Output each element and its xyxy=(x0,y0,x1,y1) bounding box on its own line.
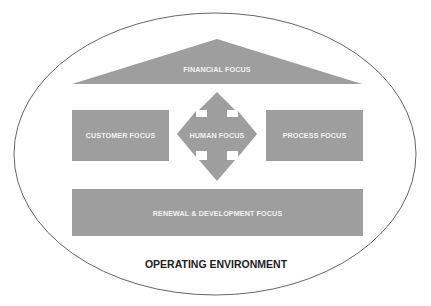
renewal-development-focus-node: RENEWAL & DEVELOPMENT FOCUS xyxy=(72,189,363,236)
financial-roof-shape xyxy=(72,39,362,84)
process-focus-label: PROCESS FOCUS xyxy=(283,131,347,140)
human-focus-node: HUMAN FOCUS xyxy=(177,92,257,181)
customer-focus-node: CUSTOMER FOCUS xyxy=(72,110,169,161)
process-focus-node: PROCESS FOCUS xyxy=(266,110,363,161)
renewal-development-focus-label: RENEWAL & DEVELOPMENT FOCUS xyxy=(153,209,283,218)
framework-diagram: FINANCIAL FOCUS CUSTOMER FOCUS HUMAN FOC… xyxy=(0,0,431,306)
financial-focus-label: FINANCIAL FOCUS xyxy=(183,65,250,74)
operating-environment-label: OPERATING ENVIRONMENT xyxy=(145,258,288,270)
financial-focus-node: FINANCIAL FOCUS xyxy=(72,39,362,84)
human-focus-label: HUMAN FOCUS xyxy=(189,131,244,140)
customer-focus-label: CUSTOMER FOCUS xyxy=(86,131,156,140)
